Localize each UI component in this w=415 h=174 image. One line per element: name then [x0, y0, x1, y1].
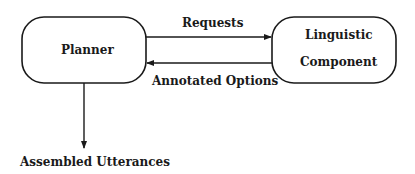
linguistic-label-line2: Component	[300, 55, 377, 69]
planner-label: Planner	[61, 43, 114, 57]
annotated-options-label: Annotated Options	[152, 74, 278, 88]
assembled-utterances-label: Assembled Utterances	[20, 155, 170, 169]
linguistic-label-line1: Linguistic	[305, 28, 373, 42]
linguistic-component-node	[272, 17, 396, 83]
requests-label: Requests	[182, 16, 243, 30]
